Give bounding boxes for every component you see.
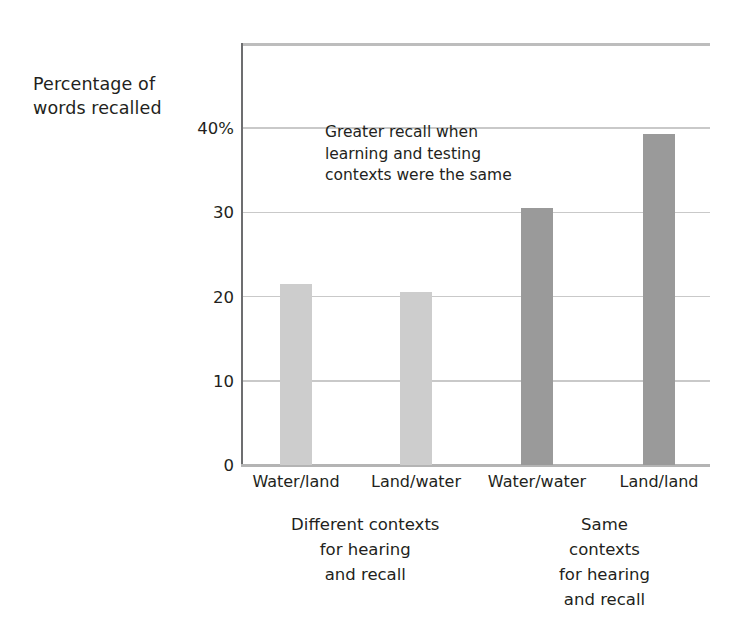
bars-layer: [241, 43, 710, 465]
group-label-1: Same contexts for hearing and recall: [552, 512, 658, 612]
category-label-1: Land/water: [371, 472, 461, 491]
group-label-0: Different contexts for hearing and recal…: [291, 512, 439, 587]
y-tick-label-40: 40%: [174, 119, 234, 138]
bar-water-water: [521, 208, 553, 465]
x-axis-category-labels: Water/landLand/waterWater/waterLand/land: [241, 472, 710, 498]
y-tick-label-0: 0: [174, 456, 234, 475]
y-axis-tick-labels: 010203040%: [168, 0, 234, 619]
bar-chart: Percentage of words recalled 010203040% …: [0, 0, 739, 619]
category-label-0: Water/land: [252, 472, 339, 491]
bar-land-land: [643, 134, 675, 465]
category-label-3: Land/land: [620, 472, 699, 491]
y-tick-label-10: 10: [174, 371, 234, 390]
chart-annotation: Greater recall when learning and testing…: [325, 122, 555, 187]
x-axis-group-labels: Different contexts for hearing and recal…: [241, 512, 710, 602]
category-label-2: Water/water: [488, 472, 586, 491]
bar-water-land: [280, 284, 312, 465]
y-tick-label-20: 20: [174, 287, 234, 306]
y-tick-label-30: 30: [174, 203, 234, 222]
bar-land-water: [400, 292, 432, 465]
